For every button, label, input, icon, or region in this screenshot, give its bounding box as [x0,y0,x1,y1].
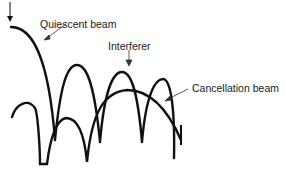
cancellation-beam-curve [12,90,181,164]
interferer-label: Interferer [108,41,151,52]
quiescent-beam-label: Quiescent beam [40,19,116,30]
steering-arrow-icon [7,2,13,22]
leader-lines [44,24,188,101]
cancellation-beam-label: Cancellation beam [192,83,279,94]
